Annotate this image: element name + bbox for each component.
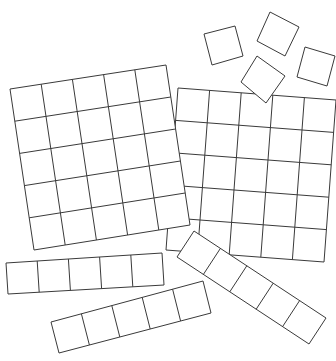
strip-outline (6, 253, 164, 294)
unit-piece (204, 26, 243, 65)
unit-outline (204, 26, 243, 65)
flat-piece (10, 65, 190, 250)
unit-piece (257, 12, 299, 56)
unit-outline (297, 47, 335, 86)
unit-outline (257, 12, 299, 56)
manipulatives-diagram (0, 0, 336, 361)
strip-outline (51, 281, 211, 353)
flat-outline (10, 65, 190, 250)
strip-piece (51, 281, 211, 353)
unit-piece (297, 47, 335, 86)
diagram-canvas (0, 0, 336, 361)
strip-piece (6, 253, 164, 294)
